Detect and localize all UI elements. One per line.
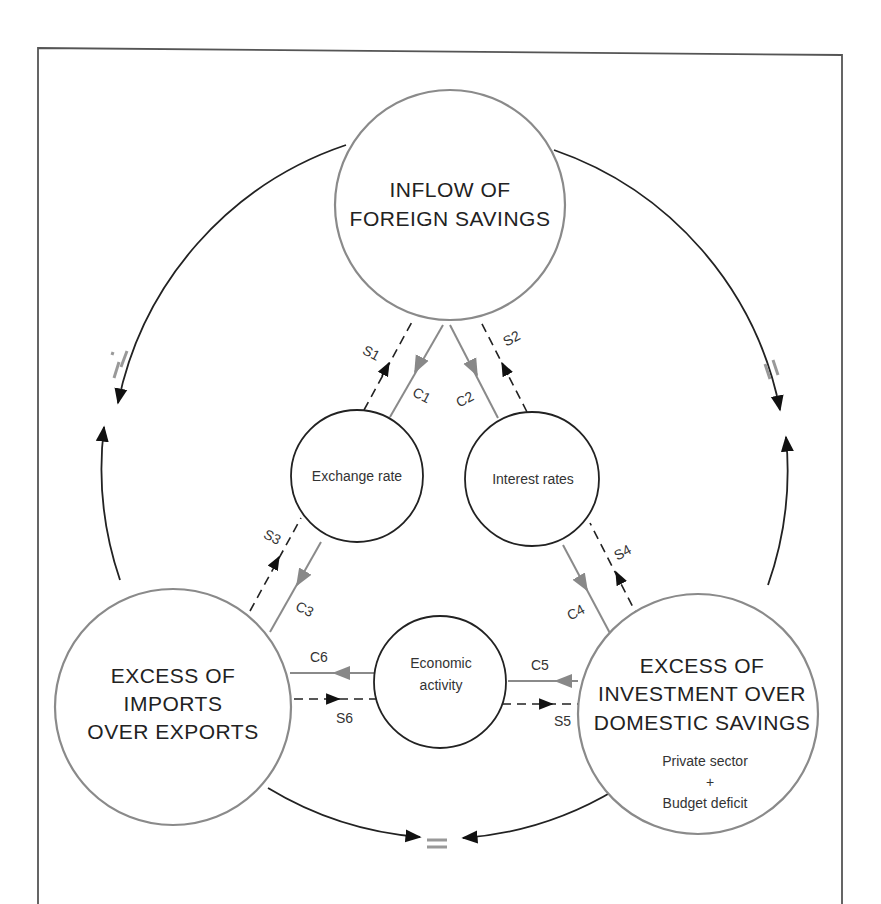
inflow-line-1: INFLOW OF [389,178,510,201]
investment-line-2: INVESTMENT OVER [598,682,806,705]
investment-sub-1: Private sector [662,753,748,769]
label-c1: C1 [410,384,434,407]
investment-line-1: EXCESS OF [640,654,765,677]
imports-line-2: IMPORTS [124,692,223,715]
label-s6: S6 [336,710,353,726]
exchange-rate-label: Exchange rate [312,468,402,484]
interest-rates-label: Interest rates [492,471,574,487]
node-inflow-foreign-savings [335,90,565,320]
label-c4: C4 [564,601,588,624]
inflow-line-2: FOREIGN SAVINGS [350,207,551,230]
label-c3: C3 [293,598,317,621]
investment-line-3: DOMESTIC SAVINGS [594,711,810,734]
label-c6: C6 [310,649,328,665]
label-s4: S4 [611,541,634,563]
investment-sub-3: Budget deficit [663,795,748,811]
label-c2: C2 [453,388,477,411]
diagram-canvas: INFLOW OF FOREIGN SAVINGS Exchange rate … [0,0,881,904]
imports-line-1: EXCESS OF [111,664,236,687]
economic-line-2: activity [420,677,463,693]
equals-sign-bottom [427,840,447,847]
label-s1: S1 [360,342,383,364]
label-s5: S5 [554,713,571,729]
economic-line-1: Economic [410,655,471,671]
investment-sub-2: + [706,774,714,790]
label-s3: S3 [261,526,284,548]
label-s2: S2 [500,327,523,349]
label-c5: C5 [531,657,549,673]
imports-line-3: OVER EXPORTS [87,720,258,743]
